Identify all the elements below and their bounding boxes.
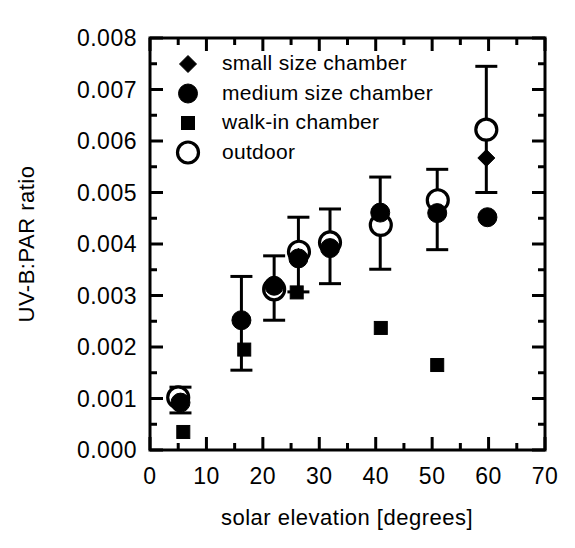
legend-entry: walk-in chamber (182, 110, 380, 133)
data-point-marker (265, 276, 284, 295)
y-tick-label: 0.003 (77, 283, 137, 309)
legend-label: walk-in chamber (221, 110, 379, 133)
series-small-size-chamber (171, 149, 495, 413)
legend-entry: medium size chamber (179, 81, 434, 104)
data-point-marker (428, 204, 447, 223)
y-axis-tick-labels: 0.0000.0010.0020.0030.0040.0050.0060.007… (77, 25, 137, 463)
legend-label: medium size chamber (222, 81, 433, 104)
x-tick-label: 0 (143, 463, 156, 489)
open-circle-icon (178, 142, 199, 163)
y-tick-label: 0.001 (77, 386, 137, 412)
series-walk-in-chamber (177, 286, 444, 439)
x-tick-label: 10 (193, 463, 220, 489)
legend-entry: outdoor (178, 140, 296, 164)
x-tick-label: 30 (306, 463, 333, 489)
legend-entry: small size chamber (180, 51, 408, 74)
y-tick-label: 0.005 (77, 180, 137, 206)
legend-label: outdoor (222, 140, 295, 163)
x-tick-label: 20 (250, 463, 277, 489)
series-outdoor (168, 119, 497, 408)
filled-square-icon (182, 117, 195, 130)
data-point-marker (290, 286, 303, 299)
y-tick-label: 0.006 (77, 128, 137, 154)
data-point-marker (478, 149, 495, 166)
diamond-icon (180, 56, 197, 73)
chart-legend: small size chambermedium size chamberwal… (178, 51, 434, 163)
data-point-marker (232, 311, 251, 330)
x-tick-label: 40 (362, 463, 389, 489)
y-tick-label: 0.004 (77, 231, 137, 257)
y-axis-title: UV-B:PAR ratio (14, 166, 39, 323)
filled-circle-icon (179, 84, 198, 103)
data-point-marker (476, 119, 497, 140)
data-point-marker (371, 203, 390, 222)
scatter-plot-svg: 010203040506070 0.0000.0010.0020.0030.00… (0, 0, 575, 548)
legend-label: small size chamber (222, 51, 407, 74)
y-tick-label: 0.008 (77, 25, 137, 51)
x-tick-label: 70 (532, 463, 559, 489)
data-point-marker (238, 343, 251, 356)
x-tick-label: 60 (475, 463, 502, 489)
x-tick-label: 50 (419, 463, 446, 489)
data-point-marker (478, 208, 497, 227)
data-point-marker (374, 321, 387, 334)
chart-figure: 010203040506070 0.0000.0010.0020.0030.00… (0, 0, 575, 548)
y-tick-label: 0.007 (77, 77, 137, 103)
x-axis-tick-labels: 010203040506070 (143, 463, 558, 489)
x-axis-title: solar elevation [degrees] (221, 505, 473, 530)
data-point-marker (431, 359, 444, 372)
y-tick-label: 0.002 (77, 334, 137, 360)
data-point-marker (177, 425, 190, 438)
y-tick-label: 0.000 (77, 437, 137, 463)
